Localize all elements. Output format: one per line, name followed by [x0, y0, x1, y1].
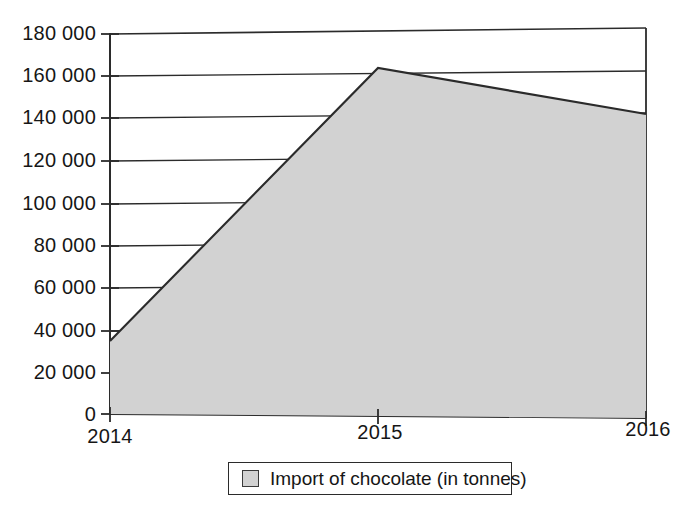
x-tick-label-2016: 2016	[625, 418, 670, 441]
legend-swatch-import-of-chocolate	[242, 470, 259, 487]
area-chart: 180 000 160 000 140 000 120 000 100 000 …	[0, 0, 693, 510]
x-tick-label-2014: 2014	[87, 425, 132, 448]
legend-label-import-of-chocolate: Import of chocolate (in tonnes)	[270, 468, 527, 490]
area-series-import-of-chocolate	[110, 68, 646, 418]
plot-area	[0, 0, 693, 460]
x-tick-label-2015: 2015	[357, 421, 402, 444]
frame-top-line	[110, 28, 646, 34]
chart-legend: Import of chocolate (in tonnes)	[228, 462, 512, 495]
